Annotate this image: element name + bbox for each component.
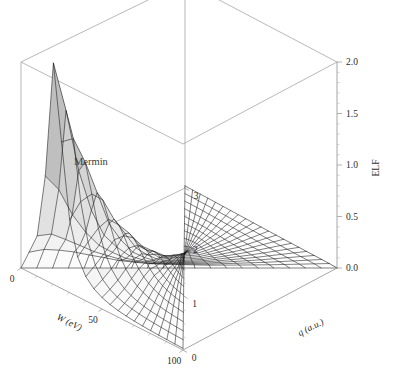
axis-label-q: q (a.u.) [296,317,326,339]
xtick-minor [83,301,86,303]
ytick-minor [183,323,185,324]
box-top-edge-front-right [183,62,337,144]
xtick-minor [35,276,38,278]
surface-cell [209,265,226,268]
box-top-edge-back-right [185,0,337,62]
xtick-minor [51,284,54,286]
xtick-label: 50 [88,315,98,325]
xtick-major [180,350,184,353]
xtick-minor [116,317,119,319]
ytick-label: 2 [193,245,198,255]
axis-label-W: W (eV) [55,312,84,334]
ztick-label: 2.0 [346,57,358,67]
model-annotation: Mermin [74,156,109,167]
xtick-major [18,268,22,271]
ytick-minor [183,337,185,338]
axis-q-line [183,268,337,350]
ztick-label: 1.0 [346,160,358,170]
box-top-edge-left-front [21,62,183,144]
figure-container: 0.00.51.01.52.0ELF050100W (eV)0123q (a.u… [0,0,397,387]
ytick-minor [184,310,186,311]
xtick-label: 100 [167,356,182,366]
ytick-major [183,350,187,352]
ztick-label: 1.5 [346,109,358,119]
ytick-minor [184,283,186,284]
ztick-label: 0.0 [346,263,358,273]
ytick-minor [184,269,186,270]
ytick-label: 1 [192,299,197,309]
ztick-label: 0.5 [346,212,358,222]
ytick-label: 0 [192,353,197,363]
ytick-major [184,296,188,298]
surface-mesh [21,63,337,348]
xtick-minor [148,334,151,336]
surface-plot: 0.00.51.01.52.0ELF050100W (eV)0123q (a.u… [0,0,397,387]
axis-label-ELF: ELF [371,160,381,177]
ytick-label: 3 [194,191,199,201]
xtick-minor [67,293,70,295]
xtick-label: 0 [10,274,15,284]
xtick-major [99,309,103,312]
xtick-minor [164,342,167,344]
xtick-minor [132,325,135,327]
box-top-edge-left-back [21,0,185,62]
